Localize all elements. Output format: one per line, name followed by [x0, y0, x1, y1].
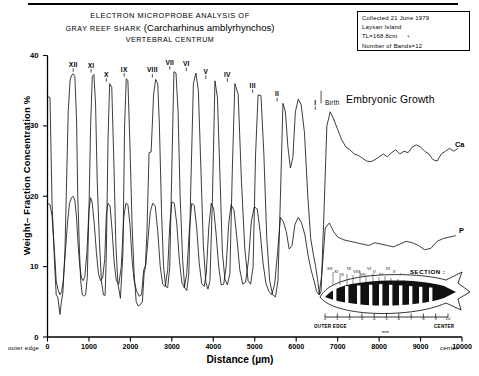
inset-band-label-VIII: VIII — [353, 269, 360, 274]
inset-section-label: SECTION : — [410, 268, 445, 275]
ca-series-line — [48, 72, 458, 315]
inset-band-label-IX: IX — [347, 266, 351, 271]
inset-band-label-I: I — [400, 272, 401, 277]
inset-center-label: CENTER — [434, 324, 454, 329]
inset-tick-4: 4 — [369, 316, 379, 321]
inset-band-label-V: V — [373, 269, 376, 274]
inset-band-label-XI: XI — [334, 269, 338, 274]
inset-outer-edge-label: OUTER EDGE — [314, 324, 347, 329]
inset-tick-8: 8 — [418, 316, 428, 321]
inset-tick-9: 9 — [431, 316, 441, 321]
inset-tick-2: 2 — [345, 316, 355, 321]
inset-band-label-II: II — [393, 269, 396, 274]
inset-band-label-IV: IV — [379, 272, 383, 277]
inset-tick-6: 6 — [394, 316, 404, 321]
band-tick-marks — [73, 66, 321, 110]
inset-tick-10: 10 — [443, 316, 453, 321]
inset-band-label-X: X — [341, 272, 344, 277]
p-series-line — [48, 196, 456, 296]
inset-tick-1: 1 — [332, 316, 342, 321]
inset-tick-5: 5 — [382, 316, 392, 321]
inset-band-label-VII: VII — [360, 272, 366, 277]
inset-band-label-VI: VI — [367, 266, 371, 271]
inset-birth-label: Birth (0) — [398, 287, 415, 292]
inset-unit-label: mm — [382, 329, 389, 334]
inset-tick-0: 0 — [320, 316, 330, 321]
inset-tick-3: 3 — [357, 316, 367, 321]
chart-axes — [43, 56, 462, 342]
inset-band-label-III: III — [386, 266, 390, 271]
inset-tick-7: 7 — [406, 316, 416, 321]
figure-root: ELECTRON MICROPROBE ANALYSIS OF GRAY REE… — [0, 0, 479, 376]
inset-band-label-XII: XII — [327, 266, 333, 271]
